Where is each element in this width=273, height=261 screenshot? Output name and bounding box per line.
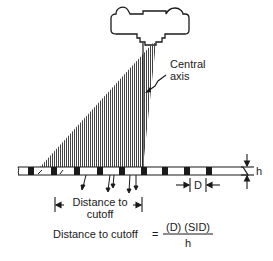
formula-denominator: h [160,237,216,249]
grid-strip [18,167,248,175]
distance-label-line2: cutoff [68,208,132,220]
central-axis-label-line1: Central [170,58,205,70]
diagram-canvas [0,0,273,261]
xray-tube-icon [111,7,189,45]
formula-numerator: (D) (SID) [160,221,216,233]
transmitted-ray-arrows [81,175,138,193]
xray-beam [40,43,156,167]
formula-lhs: Distance to cutoff [53,228,138,240]
d-label: D [194,179,202,191]
distance-label-line1: Distance to [68,196,132,208]
formula-equals: = [152,228,158,240]
central-axis-label-line2: axis [170,70,190,82]
h-label: h [256,165,262,177]
